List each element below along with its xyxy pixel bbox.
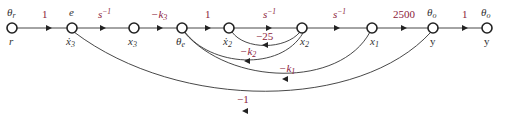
gain-r-to-e: 1 [42,8,48,20]
label-e-top: e [69,6,74,18]
forward-branches [17,25,482,31]
gain-x3-to-thetae: −k3 [151,8,167,22]
label-x3-bottom: x3 [127,35,137,49]
arrow-left-icon [262,42,268,48]
node-x2dot [224,23,234,33]
arrow-right-icon [462,25,468,31]
node-r [7,23,17,33]
node-x1 [367,23,377,33]
gain-fb-25: −25 [256,30,274,42]
arrow-right-icon [334,25,340,31]
gain-x1-to-y: 2500 [393,8,416,20]
label-x2dot-bottom: ẋ2 [222,35,232,49]
label-y-bottom: y [430,35,436,47]
arrow-right-icon [46,25,52,31]
gain-y-to-yout: 1 [462,8,468,20]
signal-flow-graph: 1 s−1 −k3 1 s−1 s−1 2500 1 −25 −k2 −k1 −… [0,0,514,125]
label-r-top: θr [7,6,16,20]
node-y [428,23,438,33]
arrow-right-icon [100,25,106,31]
gain-e-to-x3: s−1 [98,7,111,20]
gain-x2dot-to-x2: s−1 [263,7,276,20]
node-thetae [177,23,187,33]
label-x2-bottom: x2 [299,35,309,49]
label-r-bottom: r [9,35,14,47]
arrow-left-icon [244,58,250,64]
arrow-right-icon [401,25,407,31]
arrow-right-icon [205,25,211,31]
node-x3dot [67,23,77,33]
gain-fb-k2: −k2 [240,45,256,59]
arrow-right-icon [157,25,163,31]
forward-gain-labels: 1 s−1 −k3 1 s−1 s−1 2500 1 [42,7,468,22]
gain-x2-to-x1: s−1 [333,7,346,20]
gain-thetae-to-x2dot: 1 [205,8,211,20]
label-yout-bottom: y [484,35,490,47]
node-x3 [129,23,139,33]
label-x1-bottom: x1 [369,35,379,49]
label-y-top: θo [427,6,436,20]
node-yout [482,23,492,33]
gain-fb-k1: −k1 [279,62,295,76]
arrow-left-icon [282,76,288,82]
arrow-left-icon [242,108,248,114]
gain-fb-1: −1 [237,93,249,105]
label-yout-top: θo [481,6,490,20]
node-x2 [297,23,307,33]
label-x3dot-bottom: ẋ3 [65,35,75,49]
label-thetae-bottom: θe [176,35,185,49]
node-labels: θr r e ẋ3 x3 θe ẋ2 x2 x1 θo y θo y [7,6,490,49]
